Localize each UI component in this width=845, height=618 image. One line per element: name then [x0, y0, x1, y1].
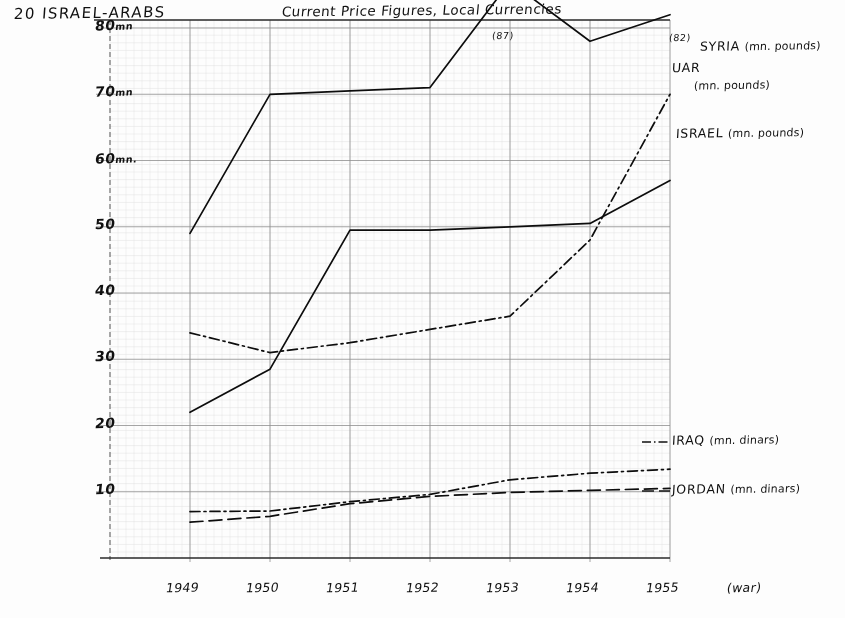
- series-unit-jordan: (mn. dinars): [730, 482, 800, 496]
- y-tick-label-30: 30: [94, 348, 116, 365]
- x-tick-label-1953: 1953: [485, 580, 520, 596]
- war-note: (war): [726, 580, 763, 596]
- x-tick-label-1950: 1950: [245, 580, 280, 596]
- series-name-israel: ISRAEL: [676, 125, 724, 141]
- y-tick-label-80: 80mn: [94, 16, 134, 33]
- x-tick-label-1955: 1955: [645, 580, 680, 596]
- series-label-syria: SYRIA (mn. pounds): [700, 37, 822, 54]
- series-label-jordan: JORDAN (mn. dinars): [672, 480, 801, 497]
- y-tick-label-50: 50: [94, 215, 116, 232]
- chart-svg: [110, 28, 670, 568]
- y-tick-value-30: 30: [94, 348, 116, 365]
- y-tick-unit-60: mn.: [115, 153, 138, 165]
- y-tick-value-60: 60: [94, 150, 116, 167]
- legend-line-stubs: [640, 420, 680, 530]
- x-tick-label-1949: 1949: [165, 580, 200, 596]
- y-tick-label-60: 60mn.: [94, 149, 138, 166]
- y-tick-label-20: 20: [94, 414, 116, 431]
- y-tick-value-40: 40: [94, 282, 116, 299]
- plot-area: [110, 28, 670, 568]
- series-unit-syria: (mn. pounds): [744, 39, 821, 53]
- x-tick-label-1951: 1951: [325, 580, 360, 596]
- chart-page: 20 ISRAEL-ARABS Current Price Figures, L…: [0, 0, 845, 618]
- y-tick-unit-70: mn: [115, 87, 134, 99]
- y-tick-label-70: 70mn: [94, 83, 134, 100]
- series-unit-uar-wrap: (mn. pounds): [694, 76, 771, 92]
- annotation-87: (87): [491, 30, 514, 41]
- series-name-syria: SYRIA: [700, 38, 741, 54]
- series-name-uar: UAR: [672, 60, 701, 75]
- y-tick-label-10: 10: [94, 480, 116, 497]
- series-label-israel: ISRAEL (mn. pounds): [676, 124, 805, 141]
- series-unit-israel: (mn. pounds): [728, 126, 805, 140]
- y-tick-value-80: 80: [94, 17, 116, 34]
- y-tick-unit-80: mn: [115, 20, 134, 32]
- minor-grid: [110, 20, 670, 558]
- y-tick-label-40: 40: [94, 282, 116, 299]
- x-tick-label-1954: 1954: [565, 580, 600, 596]
- series-label-uar: UAR: [672, 60, 701, 75]
- annotation-82: (82): [668, 32, 691, 43]
- y-tick-value-10: 10: [94, 480, 116, 497]
- series-unit-iraq: (mn. dinars): [709, 433, 779, 447]
- series-label-iraq: IRAQ (mn. dinars): [672, 431, 780, 447]
- series-unit-uar: (mn. pounds): [694, 78, 771, 92]
- y-tick-value-20: 20: [94, 414, 116, 431]
- x-tick-label-1952: 1952: [405, 580, 440, 596]
- y-tick-value-50: 50: [94, 215, 116, 232]
- chart-title: Current Price Figures, Local Currencies: [281, 1, 563, 20]
- y-tick-value-70: 70: [94, 83, 116, 100]
